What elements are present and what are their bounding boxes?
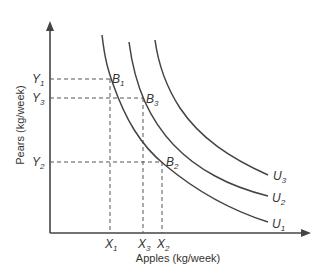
point-label-b1: B1 xyxy=(112,72,124,88)
point-label-b3: B3 xyxy=(146,92,159,108)
x-axis-arrow-icon xyxy=(301,229,311,237)
point-label-b2: B2 xyxy=(166,155,179,171)
curve-u1 xyxy=(102,35,268,222)
curve-label-u1: U1 xyxy=(272,217,285,233)
y-tick-label-y3: Y3 xyxy=(32,91,45,107)
indifference-curve-diagram: Y1 Y3 Y2 X1 X3 X2 B1 B3 B2 U1 U2 U3 Appl… xyxy=(0,0,331,275)
x-tick-label-x2: X2 xyxy=(156,237,170,253)
y-tick-label-y2: Y2 xyxy=(32,155,45,171)
curve-u2 xyxy=(129,42,268,196)
y-axis-title: Pears (kg/week) xyxy=(14,85,26,164)
y-axis-arrow-icon xyxy=(46,21,54,31)
y-tick-label-y1: Y1 xyxy=(32,72,44,88)
x-tick-label-x1: X1 xyxy=(104,237,117,253)
curve-label-u2: U2 xyxy=(272,191,286,207)
x-tick-label-x3: X3 xyxy=(137,237,151,253)
x-axis-title: Apples (kg/week) xyxy=(136,252,220,264)
curve-label-u3: U3 xyxy=(273,169,287,185)
